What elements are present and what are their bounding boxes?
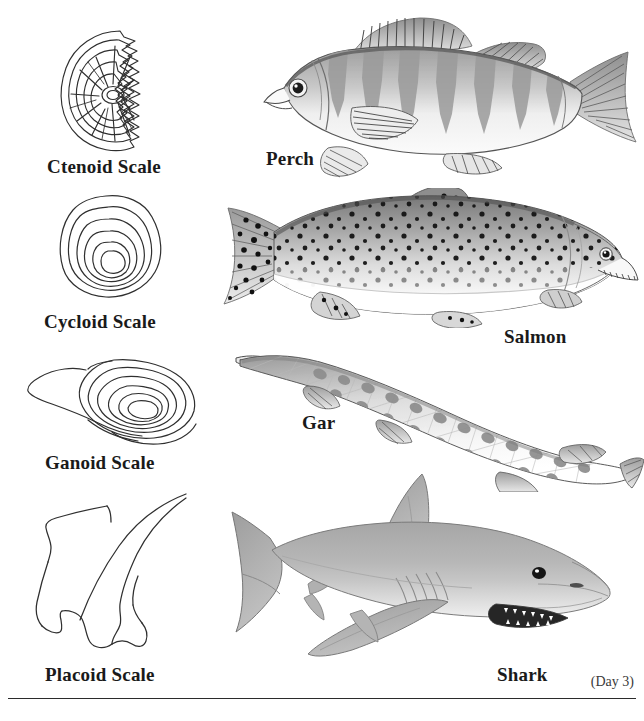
placoid-scale-diagram	[34, 492, 189, 662]
fish-label-salmon: Salmon	[504, 326, 566, 348]
fish-label-shark: Shark	[497, 664, 548, 686]
scale-label-ctenoid: Ctenoid Scale	[47, 156, 161, 178]
scale-label-cycloid: Cycloid Scale	[44, 311, 156, 333]
fish-scales-figure: Ctenoid Scale Cycloid Scale	[0, 0, 644, 721]
shark-illustration	[212, 466, 642, 666]
clipped-header-text	[0, 0, 644, 9]
fish-label-gar: Gar	[302, 412, 335, 434]
ctenoid-scale-diagram	[46, 24, 176, 156]
salmon-illustration	[218, 188, 642, 328]
scale-label-ganoid: Ganoid Scale	[45, 452, 155, 474]
day-note: (Day 3)	[591, 674, 634, 690]
footer-clipped-text	[0, 701, 644, 721]
fish-label-perch: Perch	[266, 148, 314, 170]
footer-divider	[8, 698, 636, 699]
ganoid-scale-diagram	[26, 356, 211, 448]
scale-label-placoid: Placoid Scale	[45, 664, 155, 686]
cycloid-scale-diagram	[56, 192, 174, 304]
